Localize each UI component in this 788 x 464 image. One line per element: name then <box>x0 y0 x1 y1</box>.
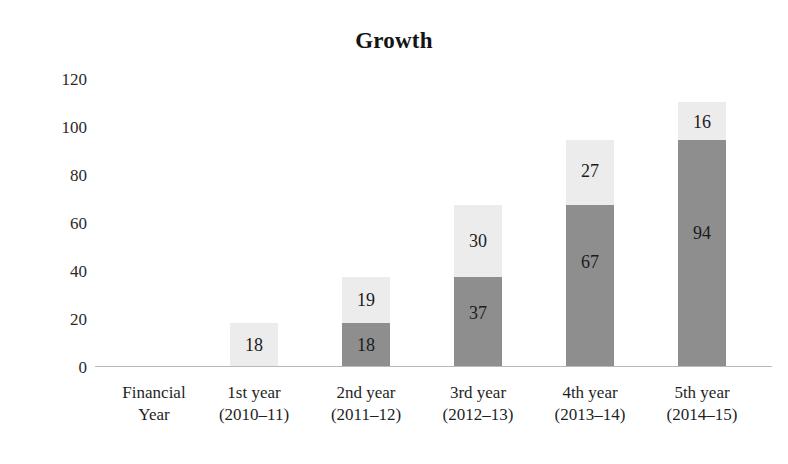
bar-group-3rd-year[interactable]: 30 37 <box>454 205 502 366</box>
bar-group-2nd-year[interactable]: 19 18 <box>342 277 390 366</box>
y-tick-60: 60 <box>25 215 87 232</box>
bar-group-5th-year[interactable]: 16 94 <box>678 102 726 366</box>
y-tick-80: 80 <box>25 167 87 184</box>
bar-segment-upper[interactable]: 18 <box>230 323 278 366</box>
bar-value-label: 30 <box>454 232 502 250</box>
bar-segment-upper[interactable]: 27 <box>566 140 614 205</box>
y-tick-20: 20 <box>25 311 87 328</box>
bar-group-1st-year[interactable]: 18 <box>230 323 278 366</box>
bar-value-label: 94 <box>678 224 726 242</box>
bar-segment-lower[interactable]: 94 <box>678 140 726 366</box>
plot-area: 120 100 80 60 40 20 0 18 19 18 30 <box>0 0 788 464</box>
category-line-2: (2014–15) <box>627 404 777 426</box>
bar-value-label: 18 <box>230 336 278 354</box>
growth-stacked-bar-chart: Growth 120 100 80 60 40 20 0 18 19 18 <box>0 0 788 464</box>
category-line-1: 5th year <box>627 382 777 404</box>
y-tick-40: 40 <box>25 263 87 280</box>
bar-segment-lower[interactable]: 18 <box>342 323 390 366</box>
bar-group-4th-year[interactable]: 27 67 <box>566 140 614 366</box>
bar-value-label: 27 <box>566 162 614 180</box>
bar-segment-lower[interactable]: 37 <box>454 277 502 366</box>
bar-value-label: 19 <box>342 291 390 309</box>
bar-segment-upper[interactable]: 30 <box>454 205 502 277</box>
bar-segment-upper[interactable]: 19 <box>342 277 390 323</box>
bar-segment-upper[interactable]: 16 <box>678 102 726 140</box>
y-tick-100: 100 <box>25 119 87 136</box>
bar-value-label: 18 <box>342 336 390 354</box>
bar-value-label: 16 <box>678 113 726 131</box>
bar-value-label: 67 <box>566 253 614 271</box>
x-axis-line <box>95 366 772 367</box>
y-tick-120: 120 <box>25 71 87 88</box>
y-tick-0: 0 <box>25 359 87 376</box>
bar-segment-lower[interactable]: 67 <box>566 205 614 366</box>
x-category-label-5th-year: 5th year (2014–15) <box>627 382 777 427</box>
bar-value-label: 37 <box>454 304 502 322</box>
